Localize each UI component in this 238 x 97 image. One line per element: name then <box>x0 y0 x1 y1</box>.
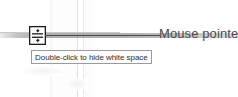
document-page-right-fill <box>85 0 95 97</box>
callout-leader-line <box>45 35 160 36</box>
document-page-left-edge <box>50 0 53 97</box>
scan-artifact-smudge <box>20 66 66 76</box>
document-page-shadow-line-b <box>83 0 84 97</box>
hide-white-space-cursor-icon[interactable] <box>29 26 46 45</box>
screenshot-canvas: Mouse pointer Double-click to hide white… <box>0 0 238 97</box>
document-page-shadow-line-a <box>77 0 78 97</box>
callout-label-mouse-pointer: Mouse pointer <box>159 26 238 42</box>
tooltip: Double-click to hide white space <box>31 50 152 64</box>
scan-artifact-smudge-secondary <box>66 78 88 90</box>
document-page-fill <box>53 0 77 97</box>
tooltip-text: Double-click to hide white space <box>35 53 148 62</box>
